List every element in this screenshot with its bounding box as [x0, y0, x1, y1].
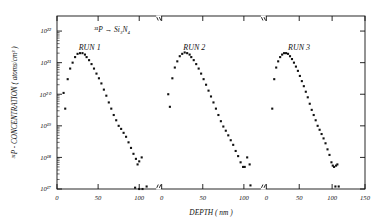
- data-point: [271, 108, 273, 110]
- x-tick-label: 0: [55, 194, 59, 201]
- data-point: [297, 70, 299, 72]
- data-point: [321, 133, 323, 135]
- data-point: [195, 63, 197, 65]
- data-point: [200, 73, 202, 75]
- data-point: [127, 141, 129, 143]
- data-point: [212, 101, 214, 103]
- data-point: [338, 185, 340, 187]
- series-run-1: [63, 52, 148, 190]
- data-point: [295, 66, 297, 68]
- data-point: [281, 54, 283, 56]
- x-tick-label: 0: [265, 194, 269, 201]
- data-point: [120, 128, 122, 130]
- data-point: [334, 185, 336, 187]
- data-point: [79, 52, 81, 54]
- data-point: [230, 139, 232, 141]
- data-point: [249, 184, 251, 186]
- data-point: [72, 62, 74, 64]
- data-point: [315, 119, 317, 121]
- data-point: [217, 114, 219, 116]
- data-point: [118, 125, 120, 127]
- x-tick-label: 150: [360, 194, 371, 201]
- run-label-2: RUN 2: [182, 43, 205, 52]
- data-point: [323, 137, 325, 139]
- data-point: [176, 60, 178, 62]
- x-tick-label: 100: [134, 194, 145, 201]
- data-point: [186, 52, 188, 54]
- data-point: [303, 85, 305, 87]
- data-point: [130, 147, 132, 149]
- data-point: [198, 68, 200, 70]
- data-point: [103, 89, 105, 91]
- data-point: [134, 187, 136, 189]
- data-point: [138, 188, 140, 190]
- implant-annotation: ³¹P → Si₃N₄: [94, 25, 131, 34]
- data-point: [184, 51, 186, 53]
- data-point: [77, 53, 79, 55]
- data-point: [115, 119, 117, 121]
- data-point: [210, 95, 212, 97]
- data-point: [181, 53, 183, 55]
- data-point: [249, 163, 251, 165]
- data-point: [273, 78, 275, 80]
- y-tick-label: 10²¹: [40, 59, 51, 66]
- data-point: [100, 82, 102, 84]
- y-axis-label: ³¹P - CONCENTRATION ( atoms/cm³ ): [11, 46, 19, 159]
- data-point: [137, 163, 139, 165]
- data-point: [275, 67, 277, 69]
- data-point: [220, 120, 222, 122]
- data-point: [305, 91, 307, 93]
- data-point: [207, 90, 209, 92]
- data-point: [171, 77, 173, 79]
- data-point: [311, 109, 313, 111]
- data-point: [336, 163, 338, 165]
- data-point: [98, 77, 100, 79]
- data-point: [135, 158, 137, 160]
- data-point: [95, 73, 97, 75]
- data-point: [225, 130, 227, 132]
- data-point: [317, 125, 319, 127]
- data-point: [299, 75, 301, 77]
- data-point: [123, 132, 125, 134]
- data-point: [279, 56, 281, 58]
- data-point: [141, 188, 143, 190]
- data-point: [81, 52, 83, 54]
- data-point: [319, 129, 321, 131]
- depth-profile-chart: 10²²10²¹10²⁰10¹⁹10¹⁸10¹⁷050100RUN 105010…: [0, 0, 373, 223]
- axis-break-gap-bottom: [156, 188, 161, 190]
- plot-frame: [57, 16, 365, 189]
- data-point: [125, 136, 127, 138]
- run-label-3: RUN 3: [287, 43, 310, 52]
- data-point: [333, 166, 335, 168]
- data-point: [237, 155, 239, 157]
- data-point: [203, 78, 205, 80]
- data-point: [326, 148, 328, 150]
- data-point: [240, 161, 242, 163]
- data-point: [189, 54, 191, 56]
- data-point: [169, 106, 171, 108]
- data-point: [235, 150, 237, 152]
- series-run-2: [167, 51, 251, 186]
- y-tick-label: 10²²: [40, 27, 52, 34]
- data-point: [93, 68, 95, 70]
- data-point: [110, 108, 112, 110]
- data-point: [138, 160, 140, 162]
- data-point: [307, 96, 309, 98]
- data-point: [289, 55, 291, 57]
- data-point: [105, 95, 107, 97]
- data-point: [174, 67, 176, 69]
- data-point: [108, 101, 110, 103]
- data-point: [69, 68, 71, 70]
- data-point: [190, 56, 192, 58]
- run-label-1: RUN 1: [78, 43, 101, 52]
- x-tick-label: 50: [199, 194, 206, 201]
- data-point: [141, 156, 143, 158]
- data-point: [283, 52, 285, 54]
- axis-break-gap-top: [261, 15, 266, 17]
- data-point: [330, 161, 332, 163]
- data-point: [146, 185, 148, 187]
- data-point: [232, 144, 234, 146]
- data-point: [179, 55, 181, 57]
- data-point: [86, 56, 88, 58]
- y-tick-label: 10²⁰: [39, 91, 52, 98]
